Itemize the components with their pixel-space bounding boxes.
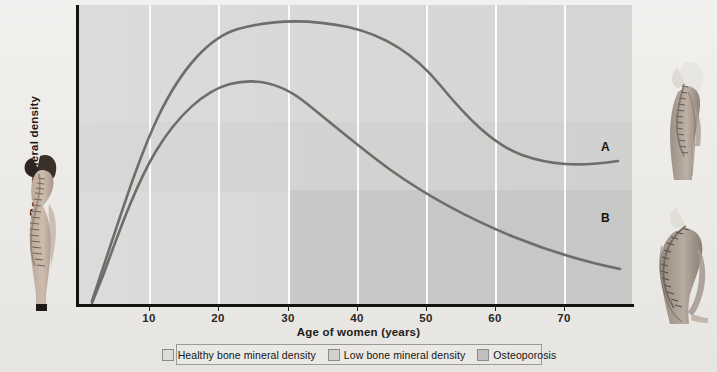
- legend-swatch-osteoporosis-icon: [477, 349, 489, 361]
- legend-item-low: Low bone mineral density: [328, 349, 465, 361]
- x-tick-30: [288, 305, 289, 311]
- young-woman-upright-spine-illustration: [6, 148, 70, 313]
- x-tick-label-10: 10: [142, 312, 155, 324]
- x-axis-line: [76, 304, 634, 307]
- legend-label-low: Low bone mineral density: [344, 349, 465, 361]
- x-tick-70: [564, 305, 565, 311]
- x-axis-label: Age of women (years): [0, 326, 717, 338]
- legend-item-healthy: Healthy bone mineral density: [162, 349, 316, 361]
- curve-b-path: [92, 81, 620, 303]
- x-tick-50: [426, 305, 427, 311]
- elderly-woman-severe-kyphosis-illustration: [642, 192, 716, 332]
- curve-label-b: B: [601, 211, 610, 225]
- x-tick-label-60: 60: [488, 312, 501, 324]
- legend-swatch-healthy-icon: [162, 349, 174, 361]
- legend: Healthy bone mineral density Low bone mi…: [176, 344, 542, 365]
- x-tick-label-70: 70: [557, 312, 570, 324]
- x-tick-label-50: 50: [419, 312, 432, 324]
- x-tick-label-40: 40: [350, 312, 363, 324]
- curve-layer: [78, 5, 632, 305]
- x-tick-10: [149, 305, 150, 311]
- curve-label-a: A: [601, 140, 610, 154]
- x-tick-label-20: 20: [211, 312, 224, 324]
- legend-label-healthy: Healthy bone mineral density: [178, 349, 316, 361]
- y-axis-line: [76, 5, 79, 307]
- older-woman-mild-spinal-curvature-illustration: [648, 56, 714, 190]
- x-tick-20: [218, 305, 219, 311]
- chart-page: A B 10 20 30 40 50 60 70 Age of women (y…: [0, 0, 717, 372]
- x-tick-40: [357, 305, 358, 311]
- legend-label-osteoporosis: Osteoporosis: [493, 349, 556, 361]
- x-tick-label-30: 30: [281, 312, 294, 324]
- legend-swatch-low-icon: [328, 349, 340, 361]
- curve-a-path: [92, 22, 618, 301]
- x-tick-60: [495, 305, 496, 311]
- legend-item-osteoporosis: Osteoporosis: [477, 349, 556, 361]
